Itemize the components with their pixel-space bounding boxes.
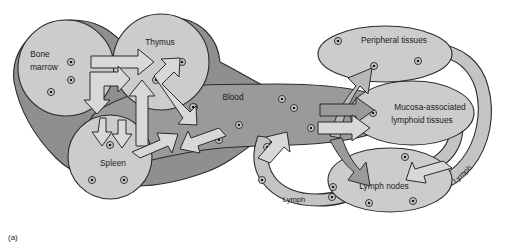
- lymphocyte-circulation-diagram: Blood Bone marrow Thymus Spleen P: [0, 0, 509, 252]
- cell-dot: [366, 200, 373, 207]
- organ-label-bone-marrow-line1: Bone: [30, 49, 50, 59]
- cell-dot: [308, 125, 315, 132]
- panel-label: (a): [8, 233, 18, 242]
- cell-dot: [330, 184, 337, 191]
- cell-dot: [89, 177, 96, 184]
- vessel-label-lymph-lower-left: Lymph: [283, 195, 306, 204]
- organ-peripheral-tissues[interactable]: Peripheral tissues: [318, 26, 452, 82]
- cell-dot: [68, 59, 75, 66]
- organ-label-bone-marrow-line2: marrow: [30, 62, 59, 72]
- cell-dot: [121, 177, 128, 184]
- organ-label-malt-line2: lymphoid tissues: [391, 115, 452, 125]
- cell-dot: [279, 96, 286, 103]
- cell-dot: [329, 194, 336, 201]
- cell-dot: [402, 154, 409, 161]
- cell-dot: [415, 58, 422, 65]
- organ-label-peripheral-tissues: Peripheral tissues: [361, 35, 427, 45]
- cell-dot: [68, 77, 75, 84]
- organ-label-blood: Blood: [222, 92, 244, 102]
- cell-dot: [335, 38, 342, 45]
- cell-dot: [259, 177, 266, 184]
- cell-dot: [291, 105, 298, 112]
- cell-dot: [236, 122, 243, 129]
- cell-dot: [107, 142, 114, 149]
- figure-container: Blood Bone marrow Thymus Spleen P: [0, 0, 509, 252]
- cell-dot: [410, 198, 417, 205]
- cell-dot: [48, 89, 55, 96]
- organ-label-spleen: Spleen: [100, 158, 126, 168]
- organ-label-thymus: Thymus: [145, 37, 175, 47]
- organ-label-malt-line1: Mucosa-associated: [394, 102, 466, 112]
